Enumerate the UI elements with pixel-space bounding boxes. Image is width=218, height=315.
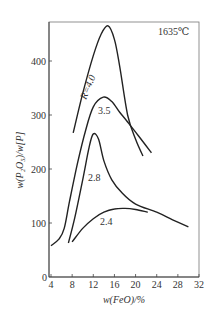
curves <box>51 26 188 246</box>
x-tick-label: 24 <box>152 279 162 290</box>
curve-label-r3-5: 3.5 <box>98 105 111 116</box>
curve-label-r4: R=4.0 <box>77 73 97 102</box>
x-tick-label: 16 <box>109 279 119 290</box>
curve-r-2-8 <box>68 133 188 243</box>
x-tick-label: 20 <box>131 279 141 290</box>
x-ticks: 48121620242832 <box>49 274 205 290</box>
y-tick-label: 400 <box>31 56 46 67</box>
curve-label-r2-8: 2.8 <box>88 172 101 183</box>
x-tick-label: 28 <box>173 279 183 290</box>
x-tick-label: 12 <box>88 279 98 290</box>
y-tick-label: 300 <box>31 110 46 121</box>
y-axis-title: w(P₂O₅)/w[P] <box>14 131 26 188</box>
x-tick-label: 32 <box>194 279 204 290</box>
temperature-annotation: 1635℃ <box>158 26 189 37</box>
chart: 48121620242832 0100200300400 R=4.0 3.5 2… <box>0 0 218 315</box>
x-tick-label: 8 <box>70 279 75 290</box>
y-tick-label: 200 <box>31 164 46 175</box>
x-axis-title: w(FeO)/% <box>103 294 145 306</box>
plot-frame <box>49 22 199 277</box>
curve-label-r2-4: 2.4 <box>100 216 113 227</box>
y-tick-label: 100 <box>31 218 46 229</box>
x-tick-label: 4 <box>49 279 54 290</box>
y-tick-label: 0 <box>42 272 47 283</box>
